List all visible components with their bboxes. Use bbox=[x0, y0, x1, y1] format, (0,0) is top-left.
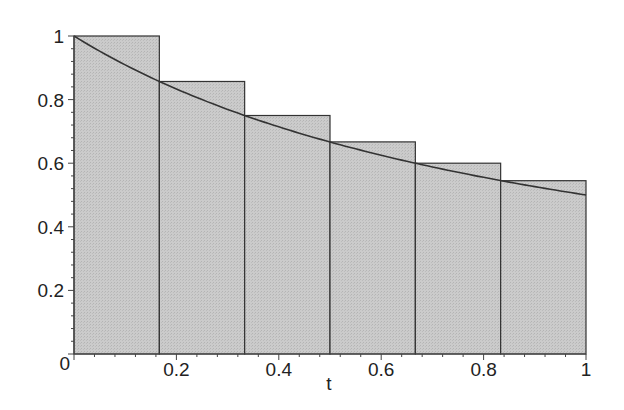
riemann-bar bbox=[415, 163, 500, 354]
x-axis-label: t bbox=[326, 373, 332, 394]
x-tick-label: 0.6 bbox=[368, 359, 394, 380]
y-tick-label: 0 bbox=[59, 353, 70, 374]
riemann-rectangles bbox=[74, 36, 586, 354]
riemann-bar bbox=[159, 81, 244, 354]
x-tick-label: 0.2 bbox=[163, 359, 189, 380]
x-tick-label: 1 bbox=[581, 359, 592, 380]
x-tick-label: 0.8 bbox=[470, 359, 496, 380]
x-axis-ticks: 0.20.40.60.81 bbox=[74, 354, 591, 380]
x-tick-label: 0.4 bbox=[266, 359, 293, 380]
riemann-bar bbox=[501, 181, 586, 354]
y-tick-label: 0.8 bbox=[38, 90, 64, 111]
y-tick-label: 0.4 bbox=[38, 217, 65, 238]
riemann-bar bbox=[74, 36, 159, 354]
y-tick-label: 0.6 bbox=[38, 153, 64, 174]
riemann-sum-chart: 00.20.40.60.81 0.20.40.60.81 t bbox=[0, 0, 624, 410]
riemann-bar bbox=[330, 142, 415, 354]
riemann-bar bbox=[245, 116, 330, 355]
y-axis-ticks: 00.20.40.60.81 bbox=[38, 26, 74, 374]
y-tick-label: 1 bbox=[53, 26, 64, 47]
y-tick-label: 0.2 bbox=[38, 280, 64, 301]
